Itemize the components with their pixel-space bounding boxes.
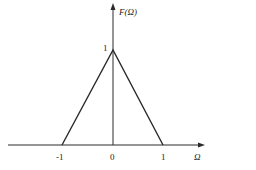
x-tick-0: 0 xyxy=(110,152,115,162)
triangle-function-plot: F(Ω) Ω 1 -1 0 1 xyxy=(0,0,256,170)
x-tick-neg1: -1 xyxy=(56,152,64,162)
x-axis-arrow-icon xyxy=(198,143,205,148)
y-axis-arrow-icon xyxy=(111,3,116,10)
y-tick-1: 1 xyxy=(103,43,108,53)
x-tick-1: 1 xyxy=(161,152,166,162)
x-axis-label: Ω xyxy=(194,152,201,162)
y-axis-label: F(Ω) xyxy=(118,7,137,17)
